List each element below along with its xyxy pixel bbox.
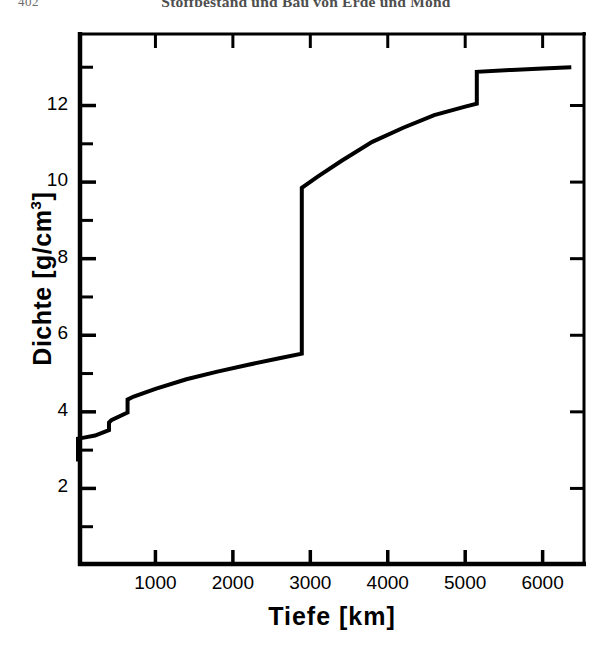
data-series-group — [78, 67, 571, 461]
y-tick-label-10: 10 — [28, 169, 68, 191]
x-tick-label-4000: 4000 — [348, 572, 428, 594]
y-tick-label-6: 6 — [28, 322, 68, 344]
y-axis-title-exponent: 3 — [27, 201, 44, 210]
x-tick-label-1000: 1000 — [115, 572, 195, 594]
y-tick-label-4: 4 — [28, 399, 68, 421]
x-tick-label-6000: 6000 — [503, 572, 583, 594]
x-tick-label-5000: 5000 — [425, 572, 505, 594]
axis-frame — [78, 32, 586, 566]
y-axis-title-tail: ] — [28, 192, 56, 201]
y-tick-label-2: 2 — [28, 475, 68, 497]
x-axis-title: Tiefe [km] — [78, 602, 586, 631]
x-tick-label-3000: 3000 — [270, 572, 350, 594]
tick-marks — [80, 34, 584, 564]
x-tick-label-2000: 2000 — [193, 572, 273, 594]
density-depth-chart: Dichte [g/cm3] Tiefe [km] 24681012 10002… — [0, 0, 612, 650]
series-line-0 — [78, 67, 571, 461]
plot-canvas — [0, 0, 612, 650]
y-tick-label-8: 8 — [28, 246, 68, 268]
y-tick-label-12: 12 — [28, 93, 68, 115]
